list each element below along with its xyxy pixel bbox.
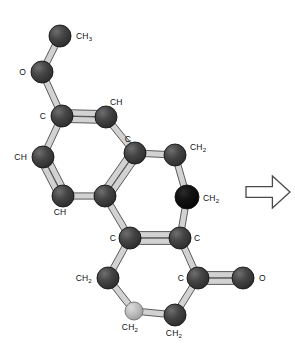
atom-sphere [52, 185, 74, 207]
bond-layer [37, 35, 243, 318]
atom-label: CH2 [122, 322, 139, 333]
atom-sphere [95, 106, 117, 128]
atom-label: CH2 [76, 273, 93, 284]
atom-label: CH [14, 152, 27, 162]
atom-label: O [259, 273, 266, 283]
atom-sphere [97, 267, 119, 289]
molecular-structure-figure: CH3OCCHCCHCHCH2CH2CCCH2COCH2CH2 [0, 0, 295, 359]
atom-label: C [178, 273, 184, 283]
atom-label: CH2 [203, 193, 220, 204]
atom-sphere [187, 267, 209, 289]
molecule-canvas: CH3OCCHCCHCHCH2CH2CCCH2COCH2CH2 [0, 0, 295, 359]
atom-sphere [51, 105, 73, 127]
arrow-layer [246, 176, 290, 208]
atom-sphere [31, 61, 53, 83]
atom-sphere [32, 146, 54, 168]
atom-sphere [164, 144, 186, 166]
atom-label: C [40, 111, 46, 121]
atom-sphere [124, 142, 146, 164]
atom-sphere [164, 304, 186, 326]
atom-sphere [49, 25, 71, 47]
atom-label: O [19, 67, 26, 77]
atom-label: CH3 [76, 31, 93, 42]
atom-label: CH [54, 207, 67, 217]
atom-sphere [232, 267, 254, 289]
atom-label: CH [110, 97, 123, 107]
atom-sphere [169, 227, 191, 249]
atom-sphere [94, 185, 116, 207]
atom-sphere [125, 302, 143, 320]
reaction-arrow-right-icon [246, 176, 290, 208]
atom-label: C [110, 233, 116, 243]
atom-label: CH2 [166, 328, 183, 339]
atom-sphere [175, 185, 199, 209]
atom-label: C [194, 233, 200, 243]
atom-label: C [125, 134, 131, 144]
atom-label: CH2 [190, 142, 207, 153]
atom-sphere [119, 227, 141, 249]
